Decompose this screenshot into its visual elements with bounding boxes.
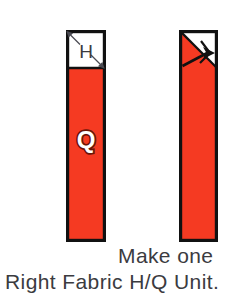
left-unit-strip-label-Q: Q [77,126,96,153]
left-unit-patch-label-H: H [79,41,93,62]
figure-canvas: H Q Q Make one Right F [0,0,238,301]
right-fabric-unit-illustration [179,30,218,242]
right-fabric-unit [179,30,218,242]
caption-unit-name: Right Fabric H/Q Unit. [5,269,219,294]
caption-make-one: Make one [118,243,213,268]
left-fabric-unit: H Q Q [66,30,106,242]
left-fabric-unit-illustration: H Q Q [66,30,106,242]
left-unit-quarter-strip [68,68,105,240]
